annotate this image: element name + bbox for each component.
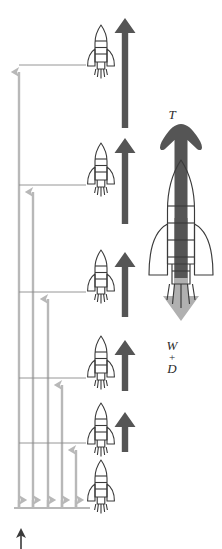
ground-up-arrow: [16, 528, 26, 549]
large-rocket-assembly: [140, 118, 222, 348]
thrust-arrow-2: [115, 138, 136, 224]
thrust-arrow-4: [115, 340, 136, 391]
thrust-label: T: [160, 108, 184, 122]
thrust-arrow-5: [115, 412, 136, 452]
thrust-arrow-main: [160, 124, 202, 278]
thrust-arrow-3: [115, 252, 136, 317]
thrust-arrow-1: [115, 18, 136, 128]
weight-drag-label: W + D: [157, 339, 187, 376]
figure-canvas: T W + D: [0, 0, 222, 549]
drag-symbol: D: [157, 362, 187, 376]
